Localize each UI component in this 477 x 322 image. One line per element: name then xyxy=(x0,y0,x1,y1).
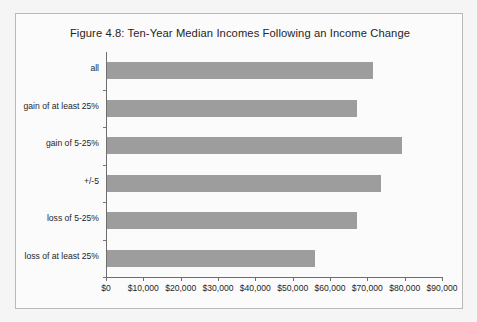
x-tick xyxy=(293,277,294,281)
category-label-all: all xyxy=(90,63,99,73)
bar-row: loss of at least 25% xyxy=(106,240,442,278)
x-tick-label: $30,000 xyxy=(202,283,233,293)
bar-row: all xyxy=(106,52,442,90)
category-tick xyxy=(103,127,106,128)
category-label-loss-at-least-25: loss of at least 25% xyxy=(24,251,99,261)
category-tick xyxy=(103,240,106,241)
bar-row: loss of 5-25% xyxy=(106,202,442,240)
x-tick-label: $80,000 xyxy=(389,283,420,293)
x-tick-label: $0 xyxy=(101,283,111,293)
x-tick xyxy=(181,277,182,281)
x-tick xyxy=(442,277,443,281)
category-tick xyxy=(103,165,106,166)
bar-row: gain of at least 25% xyxy=(106,90,442,128)
x-tick-label: $90,000 xyxy=(426,283,457,293)
x-tick xyxy=(255,277,256,281)
category-label-gain-5-25: gain of 5-25% xyxy=(46,138,99,148)
bar-plus-minus-5 xyxy=(107,175,381,192)
category-label-plus-minus-5: +/-5 xyxy=(84,176,99,186)
x-tick-label: $20,000 xyxy=(165,283,196,293)
x-axis: $0 $10,000 $20,000 $30,000 $40,000 $50,0… xyxy=(106,277,442,307)
bar-all xyxy=(107,62,373,79)
chart-title: Figure 4.8: Ten-Year Median Incomes Foll… xyxy=(16,27,464,39)
x-axis-line xyxy=(106,277,442,278)
bar-loss-5-25 xyxy=(107,212,357,229)
bar-row: +/-5 xyxy=(106,165,442,203)
x-tick xyxy=(405,277,406,281)
x-tick-label: $40,000 xyxy=(240,283,271,293)
x-tick xyxy=(106,277,107,281)
x-tick-label: $60,000 xyxy=(314,283,345,293)
category-tick xyxy=(103,90,106,91)
x-tick xyxy=(367,277,368,281)
x-tick-label: $50,000 xyxy=(277,283,308,293)
plot-area: all gain of at least 25% gain of 5-25% +… xyxy=(106,52,442,277)
figure-root: Figure 4.8: Ten-Year Median Incomes Foll… xyxy=(0,0,477,322)
chart-frame: Figure 4.8: Ten-Year Median Incomes Foll… xyxy=(15,13,463,309)
category-tick xyxy=(103,202,106,203)
bar-row: gain of 5-25% xyxy=(106,127,442,165)
x-tick-label: $10,000 xyxy=(128,283,159,293)
bar-gain-5-25 xyxy=(107,137,402,154)
category-label-loss-5-25: loss of 5-25% xyxy=(47,213,99,223)
bar-loss-at-least-25 xyxy=(107,250,315,267)
x-tick-label: $70,000 xyxy=(352,283,383,293)
bar-gain-at-least-25 xyxy=(107,100,357,117)
x-tick xyxy=(218,277,219,281)
x-tick xyxy=(330,277,331,281)
x-tick xyxy=(143,277,144,281)
category-label-gain-at-least-25: gain of at least 25% xyxy=(24,101,100,111)
